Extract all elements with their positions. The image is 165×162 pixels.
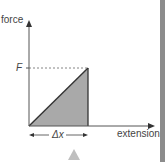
x-axis-label: extension (117, 128, 160, 139)
y-axis-label: force (1, 14, 23, 25)
pointer-triangle-icon (68, 149, 80, 160)
extension-span-label: Δx (52, 129, 64, 140)
delta-x-right-arrow-icon (83, 133, 88, 137)
force-marker-label: F (16, 62, 22, 73)
delta-x-left-arrow-icon (29, 133, 34, 137)
y-axis-arrow-icon (26, 20, 32, 27)
